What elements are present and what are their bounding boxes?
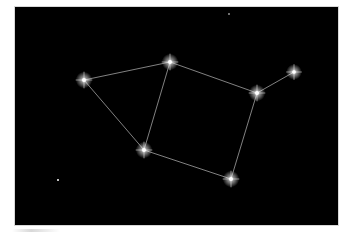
page-edge-mark xyxy=(12,229,60,232)
constellation-line-B-C xyxy=(170,62,257,93)
star-icon-F xyxy=(223,171,240,188)
constellation-line-B-E xyxy=(144,62,170,150)
star-icon-faint-1 xyxy=(57,179,59,181)
star-icon-faint-2 xyxy=(228,13,230,15)
star-icon-B xyxy=(162,54,179,71)
constellation-line-E-F xyxy=(144,150,231,179)
star-icon-C xyxy=(249,85,266,102)
constellation-lines xyxy=(84,62,294,179)
constellation-line-A-E xyxy=(84,80,144,150)
star-icon-A xyxy=(76,72,93,89)
stars xyxy=(57,13,302,187)
night-sky-photo xyxy=(15,7,338,225)
star-icon-E xyxy=(136,142,153,159)
constellation-diagram xyxy=(15,7,338,225)
constellation-line-A-B xyxy=(84,62,170,80)
constellation-line-C-F xyxy=(231,93,257,179)
star-icon-D xyxy=(286,64,302,80)
